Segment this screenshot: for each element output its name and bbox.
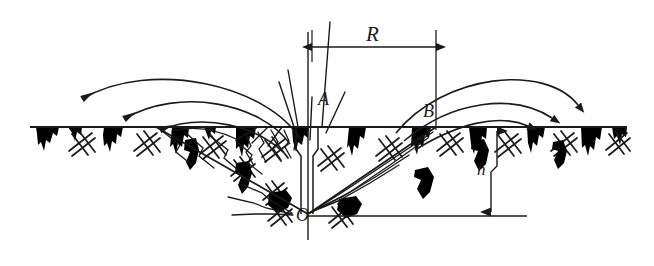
point-b-label: B — [423, 102, 434, 120]
crack-lines-right — [310, 132, 433, 213]
radius-label: R — [366, 24, 379, 45]
soil-layer — [36, 127, 627, 157]
depth-dimension — [491, 131, 497, 212]
depth-label: h — [477, 161, 486, 178]
blast-crater-diagram: R A B O h — [0, 0, 654, 266]
origin-label: O — [296, 206, 309, 224]
diagram-canvas — [0, 0, 654, 266]
ejecta-fan-lines — [236, 22, 345, 150]
point-a-label: A — [318, 90, 329, 108]
